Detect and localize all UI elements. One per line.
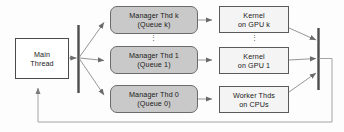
node-kernel-gpu-k[interactable]: Kernel on GPU k <box>219 6 289 33</box>
kernel-1-line2: on GPU 1 <box>238 61 270 70</box>
node-manager-thread-1[interactable]: Manager Thd 1 (Queue 1) <box>110 46 198 74</box>
kernel-k-line2: on GPU k <box>238 20 270 29</box>
manager-1-line1: Manager Thd 1 <box>129 51 179 60</box>
main-thread-line1: Main <box>34 50 50 59</box>
node-main-thread[interactable]: Main Thread <box>15 38 69 79</box>
wire-fork-to-manager-k <box>80 23 105 58</box>
ellipsis-kernels: ⋮ <box>251 35 258 42</box>
manager-k-line1: Manager Thd k <box>129 11 179 20</box>
worker-cpus-line1: Worker Thds <box>233 91 275 100</box>
wire-fork-to-manager-0 <box>80 59 105 95</box>
manager-0-line1: Manager Thd 0 <box>129 90 179 99</box>
node-manager-thread-k[interactable]: Manager Thd k (Queue k) <box>110 6 198 34</box>
diagram-canvas: Main Thread Manager Thd k (Queue k) Mana… <box>0 0 344 132</box>
node-kernel-gpu-1[interactable]: Kernel on GPU 1 <box>219 47 289 74</box>
manager-1-line2: (Queue 1) <box>137 60 170 69</box>
wire-kernel-1-to-join <box>289 59 316 61</box>
wire-worker-to-join <box>289 73 316 92</box>
wire-fork-to-manager-1 <box>80 58 105 61</box>
ellipsis-managers: ⋮ <box>150 35 157 42</box>
main-thread-line2: Thread <box>30 59 53 68</box>
manager-k-line2: (Queue k) <box>138 20 171 29</box>
node-worker-threads-cpus[interactable]: Worker Thds on CPUs <box>219 86 289 113</box>
kernel-1-line1: Kernel <box>243 52 264 61</box>
worker-cpus-line2: on CPUs <box>239 100 268 109</box>
wire-kernel-k-to-join <box>289 28 316 40</box>
manager-0-line2: (Queue 0) <box>137 99 170 108</box>
node-manager-thread-0[interactable]: Manager Thd 0 (Queue 0) <box>110 85 198 113</box>
kernel-k-line1: Kernel <box>243 11 264 20</box>
